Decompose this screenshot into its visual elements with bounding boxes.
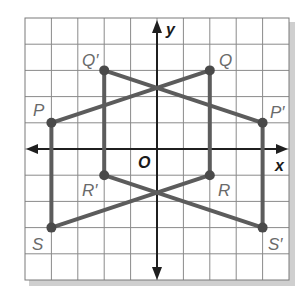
point-label-S: S: [32, 235, 44, 254]
vertex-point-S: [46, 223, 56, 233]
coordinate-plane-diagram: y x O Q′ Q P P′ R′ R S S′: [0, 0, 300, 290]
origin-label: O: [138, 154, 151, 171]
point-label-Qp: Q′: [82, 51, 99, 70]
vertex-point-Sp: [258, 223, 268, 233]
point-label-Sp: S′: [268, 235, 283, 254]
point-label-Rp: R′: [82, 181, 98, 200]
point-label-Pp: P′: [270, 103, 285, 122]
vertex-point-R: [205, 170, 215, 180]
vertex-point-Pp: [258, 118, 268, 128]
y-axis-label: y: [165, 21, 176, 38]
vertex-point-P: [46, 118, 56, 128]
point-label-Q: Q: [219, 51, 232, 70]
vertex-point-Q: [205, 65, 215, 75]
x-axis-label: x: [274, 157, 285, 174]
point-label-P: P: [33, 101, 45, 120]
point-label-R: R: [218, 181, 230, 200]
vertex-point-Rp: [99, 170, 109, 180]
vertex-point-Qp: [99, 65, 109, 75]
